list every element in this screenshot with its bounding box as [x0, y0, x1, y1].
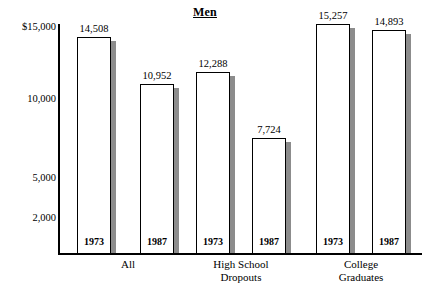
- bar-all-1973[interactable]: [77, 37, 111, 253]
- bar-value-label: 14,893: [357, 16, 421, 27]
- group-label-line-1: College: [311, 258, 411, 271]
- bar-college-grads-1973[interactable]: [316, 24, 350, 253]
- bar-value-label: 10,952: [125, 70, 189, 81]
- group-label-high-school-dropouts: High School Dropouts: [191, 258, 291, 283]
- bar-all-1987[interactable]: [140, 84, 174, 253]
- bar-year-label: 1987: [140, 236, 174, 247]
- bar-year-label: 1973: [77, 236, 111, 247]
- bar-value-label: 15,257: [301, 10, 365, 21]
- bar-hs-dropouts-1973[interactable]: [196, 72, 230, 253]
- group-label-all: All: [88, 258, 168, 271]
- bar-college-grads-1987[interactable]: [372, 30, 406, 253]
- bar-year-label: 1987: [372, 236, 406, 247]
- bar-value-label: 14,508: [62, 23, 126, 34]
- plot-area: 14,508 1973 10,952 1987 All 12,288 1973 …: [0, 0, 430, 301]
- bar-value-label: 7,724: [238, 124, 300, 135]
- bar-year-label: 1987: [252, 236, 286, 247]
- bar-year-label: 1973: [316, 236, 350, 247]
- bar-year-label: 1973: [196, 236, 230, 247]
- bar-value-label: 12,288: [181, 58, 245, 69]
- group-label-line-2: Graduates: [311, 271, 411, 284]
- group-label-line-2: Dropouts: [191, 271, 291, 284]
- group-label-college-graduates: College Graduates: [311, 258, 411, 283]
- group-label-line-1: High School: [191, 258, 291, 271]
- chart-container: Men $15,000 10,000 5,000 2,000 14,508 19…: [0, 0, 430, 301]
